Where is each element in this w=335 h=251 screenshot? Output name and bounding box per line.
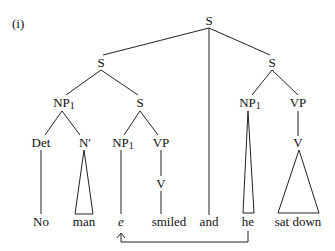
word-man: man <box>73 215 95 229</box>
node-vp-inner: VP <box>153 136 170 150</box>
node-v-inner: V <box>156 177 165 191</box>
np-text: NP <box>53 95 70 110</box>
np-text: NP <box>239 95 256 110</box>
node-vp-right: VP <box>290 96 307 110</box>
word-empty-e: e <box>118 215 124 229</box>
word-sat-down: sat down <box>275 215 322 229</box>
node-np1-inner: NP1 <box>112 136 134 150</box>
example-label: (i) <box>12 17 24 31</box>
word-no: No <box>33 215 49 229</box>
np-subscript: 1 <box>70 100 75 111</box>
node-s-inner: S <box>136 96 143 110</box>
word-and: and <box>200 215 219 229</box>
node-s-left: S <box>97 56 104 70</box>
node-nbar: N′ <box>79 136 91 150</box>
node-np1-left: NP1 <box>53 96 75 110</box>
np-subscript: 1 <box>256 100 261 111</box>
node-s-right: S <box>268 56 275 70</box>
np-text: NP <box>112 135 129 150</box>
node-v-right: V <box>293 136 302 150</box>
word-smiled: smiled <box>152 215 187 229</box>
node-det: Det <box>32 136 51 150</box>
node-root-s: S <box>205 14 212 28</box>
word-he: he <box>242 215 254 229</box>
node-np1-right: NP1 <box>239 96 261 110</box>
np-subscript: 1 <box>129 140 134 151</box>
